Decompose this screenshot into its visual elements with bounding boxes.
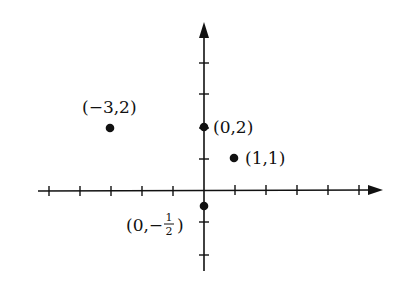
point-0-2 — [200, 123, 209, 132]
y-axis-arrow-icon — [199, 22, 209, 38]
label-fraction-denominator: 2 — [166, 225, 173, 238]
point-neg3-2 — [106, 124, 115, 133]
x-axis-arrow-icon — [368, 185, 383, 195]
point-1-1 — [230, 154, 239, 163]
label-0-neg-half-prefix: (0,− — [126, 215, 163, 235]
x-axis — [38, 190, 372, 191]
label-0-neg-half-suffix: ) — [177, 215, 184, 235]
label-1-1: (1,1) — [245, 148, 285, 168]
point-0-neg-half — [200, 202, 209, 211]
label-neg3-2: (−3,2) — [82, 97, 137, 117]
label-0-neg-half: (0,− 1 2 ) — [126, 211, 184, 238]
label-0-2: (0,2) — [213, 117, 253, 137]
label-fraction-numerator: 1 — [166, 211, 173, 224]
coordinate-plane: (−3,2) (0,2) (1,1) (0,− 1 2 ) — [0, 0, 402, 296]
